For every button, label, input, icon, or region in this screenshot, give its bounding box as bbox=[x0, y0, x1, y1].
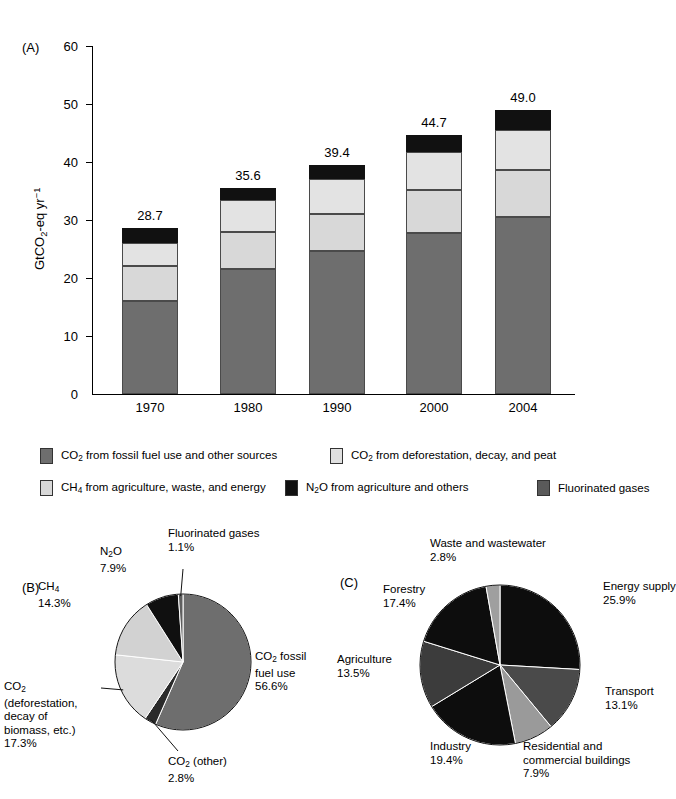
pie-c-label-forestry-line: 17.4% bbox=[383, 597, 425, 611]
bar-segment-1970-s0 bbox=[122, 301, 178, 394]
panel-c-pie-chart: (C) Energy supply25.9%Transport13.1%Resi… bbox=[335, 525, 670, 799]
y-axis-label-pre: GtCO bbox=[32, 237, 47, 270]
pie-b-label-co2-other-line: 2.8% bbox=[168, 772, 227, 786]
pie-c-label-residential-and-commercial-buildings: Residential andcommercial buildings7.9% bbox=[523, 740, 630, 781]
legend-swatch-fluorinated-gases bbox=[537, 480, 550, 496]
y-tick-label-30: 30 bbox=[48, 213, 78, 228]
bar-1980 bbox=[220, 188, 276, 394]
pie-b-label-co2-deforestation-line: biomass, etc.) bbox=[4, 724, 78, 738]
legend-item-co2-fossil: CO2 from fossil fuel use and other sourc… bbox=[40, 448, 277, 464]
bar-segment-1990-s0 bbox=[309, 251, 365, 394]
y-axis-label-sub: 2 bbox=[39, 232, 49, 237]
bar-total-label-2004: 49.0 bbox=[483, 90, 563, 105]
bar-segment-1990-s2 bbox=[309, 179, 365, 213]
legend-swatch-co2-deforestation bbox=[330, 448, 343, 464]
pie-c-label-waste-and-wastewater: Waste and wastewater2.8% bbox=[430, 537, 546, 564]
bar-segment-1980-s2 bbox=[220, 200, 276, 232]
pie-c-label-waste-and-wastewater-line: Waste and wastewater bbox=[430, 537, 546, 551]
y-tick-label-50: 50 bbox=[48, 97, 78, 112]
pie-c-label-agriculture-line: Agriculture bbox=[337, 653, 392, 667]
pie-c-label-forestry-line: Forestry bbox=[383, 583, 425, 597]
bar-total-label-1970: 28.7 bbox=[110, 208, 190, 223]
pie-c-label-residential-and-commercial-buildings-line: Residential and bbox=[523, 740, 630, 754]
pie-c-label-forestry: Forestry17.4% bbox=[383, 583, 425, 610]
pie-b-label-n2o-line: N2O bbox=[100, 545, 126, 562]
pie-c-label-transport-line: 13.1% bbox=[605, 699, 654, 713]
bar-total-label-1990: 39.4 bbox=[297, 145, 377, 160]
bar-segment-2004-s0 bbox=[495, 217, 551, 394]
bar-total-label-1980: 35.6 bbox=[208, 168, 288, 183]
x-tick-label-1980: 1980 bbox=[208, 400, 288, 415]
pie-b-label-co2-fossil-fuel-use-line: 56.6% bbox=[255, 680, 306, 694]
bar-1970 bbox=[122, 228, 178, 394]
pie-c-label-transport: Transport13.1% bbox=[605, 685, 654, 712]
pie-c-label-industry-line: Industry bbox=[430, 740, 471, 754]
legend-item-ch4: CH4 from agriculture, waste, and energy bbox=[40, 480, 266, 496]
y-tick-mark-30 bbox=[86, 220, 92, 221]
x-tick-label-2000: 2000 bbox=[394, 400, 474, 415]
pie-c-label-energy-supply-line: 25.9% bbox=[603, 594, 676, 608]
legend-label-fluorinated-gases: Fluorinated gases bbox=[558, 482, 649, 494]
pie-c-label-agriculture: Agriculture13.5% bbox=[337, 653, 392, 680]
bar-segment-2000-s2 bbox=[406, 152, 462, 190]
bar-segment-1970-s3 bbox=[122, 228, 178, 243]
bar-1990 bbox=[309, 165, 365, 394]
y-tick-mark-40 bbox=[86, 162, 92, 163]
legend-item-n2o: N2O from agriculture and others bbox=[285, 480, 469, 496]
panel-a-bar-chart: (A) GtCO2-eq yr−1 0102030405060 28.735.6… bbox=[0, 0, 670, 430]
bar-segment-1990-s1 bbox=[309, 214, 365, 251]
y-axis-label: GtCO2-eq yr−1 bbox=[32, 70, 49, 270]
legend-swatch-n2o bbox=[285, 480, 298, 496]
bar-2000 bbox=[406, 135, 462, 394]
pie-b-label-co2-fossil-fuel-use: CO2 fossilfuel use56.6% bbox=[255, 650, 306, 694]
y-axis-label-mid: -eq yr bbox=[32, 198, 47, 231]
legend-label-ch4: CH4 from agriculture, waste, and energy bbox=[61, 481, 266, 495]
pie-b-label-ch4-line: 14.3% bbox=[38, 597, 71, 611]
legend-swatch-co2-fossil bbox=[40, 448, 53, 464]
pie-slice-energy-supply bbox=[500, 585, 580, 670]
pie-b-label-co2-fossil-fuel-use-line: CO2 fossil bbox=[255, 650, 306, 667]
bar-segment-2000-s3 bbox=[406, 135, 462, 152]
x-tick-label-1970: 1970 bbox=[110, 400, 190, 415]
pie-b-label-co2-other: CO2 (other)2.8% bbox=[168, 755, 227, 785]
pie-b-label-fluorinated-gases-line: Fluorinated gases bbox=[168, 527, 259, 541]
y-tick-label-0: 0 bbox=[48, 387, 78, 402]
panel-b-pie-chart: (B) CO2 fossilfuel use56.6%CO2 (other)2.… bbox=[0, 525, 335, 799]
panel-a-tag-text: (A) bbox=[22, 40, 39, 55]
pie-b-label-co2-deforestation-line: CO2 bbox=[4, 680, 78, 697]
pie-c-label-residential-and-commercial-buildings-line: commercial buildings bbox=[523, 754, 630, 768]
pie-b-label-n2o: N2O7.9% bbox=[100, 545, 126, 575]
y-tick-label-60: 60 bbox=[48, 39, 78, 54]
bar-segment-2000-s0 bbox=[406, 233, 462, 394]
pie-c-label-industry: Industry19.4% bbox=[430, 740, 471, 767]
bar-segment-1980-s3 bbox=[220, 188, 276, 200]
bar-segment-1980-s0 bbox=[220, 269, 276, 394]
bar-2004 bbox=[495, 110, 551, 394]
y-tick-mark-20 bbox=[86, 278, 92, 279]
legend-label-co2-deforestation: CO2 from deforestation, decay, and peat bbox=[351, 449, 556, 463]
bar-segment-2004-s2 bbox=[495, 130, 551, 171]
y-axis-line bbox=[92, 46, 93, 395]
y-tick-mark-60 bbox=[86, 46, 92, 47]
bar-segment-2004-s1 bbox=[495, 170, 551, 216]
pie-c-label-agriculture-line: 13.5% bbox=[337, 667, 392, 681]
pie-leader-line bbox=[181, 569, 183, 596]
legend: CO2 from fossil fuel use and other sourc… bbox=[0, 440, 670, 510]
bar-segment-2004-s3 bbox=[495, 110, 551, 130]
pie-b-label-co2-deforestation: CO2(deforestation,decay ofbiomass, etc.)… bbox=[4, 680, 78, 751]
panel-b-tag: (B) bbox=[22, 580, 39, 595]
pie-c-label-industry-line: 19.4% bbox=[430, 754, 471, 768]
x-tick-label-1990: 1990 bbox=[297, 400, 377, 415]
pie-c-label-residential-and-commercial-buildings-line: 7.9% bbox=[523, 767, 630, 781]
pie-b-label-co2-deforestation-line: 17.3% bbox=[4, 737, 78, 751]
legend-label-co2-fossil: CO2 from fossil fuel use and other sourc… bbox=[61, 449, 277, 463]
pie-b-label-co2-fossil-fuel-use-line: fuel use bbox=[255, 667, 306, 681]
pie-b-label-co2-deforestation-line: decay of bbox=[4, 710, 78, 724]
y-tick-label-20: 20 bbox=[48, 271, 78, 286]
pie-b-label-n2o-line: 7.9% bbox=[100, 562, 126, 576]
panel-c-tag: (C) bbox=[340, 575, 358, 590]
pie-c-label-energy-supply-line: Energy supply bbox=[603, 580, 676, 594]
bar-segment-1990-s3 bbox=[309, 165, 365, 179]
y-axis-label-sup: −1 bbox=[32, 188, 42, 199]
y-tick-label-40: 40 bbox=[48, 155, 78, 170]
